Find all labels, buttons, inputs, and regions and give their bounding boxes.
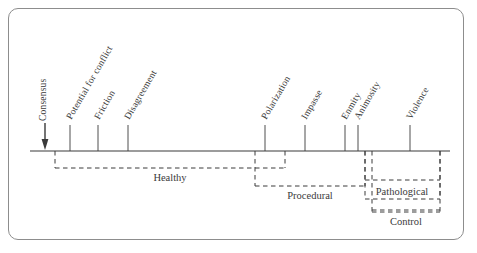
arrow-marker (42, 139, 49, 150)
bracket-label-pathological: Pathological (342, 186, 462, 197)
point-label-consensus: Consensus (38, 79, 48, 121)
bracket-label-control: Control (346, 216, 466, 227)
bracket-label-healthy: Healthy (110, 172, 230, 183)
